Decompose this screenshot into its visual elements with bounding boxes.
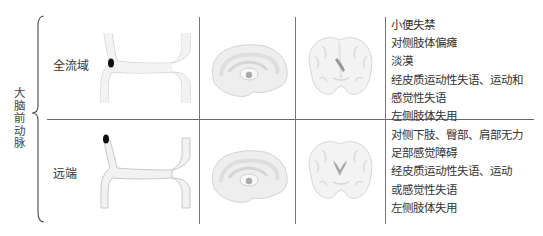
symptom-item: 经皮质运动性失语、运动和 bbox=[391, 71, 523, 89]
artery-label-char: 大 bbox=[12, 87, 26, 100]
symptom-item: 足部感觉障碍 bbox=[391, 144, 523, 162]
occlusion-marker bbox=[103, 135, 109, 144]
sagittal-brain-distal bbox=[207, 146, 291, 204]
symptom-item: 或感觉性失语 bbox=[391, 181, 523, 199]
symptom-list-full-territory: 小便失禁 对侧肢体偏瘫 淡漠 经皮质运动性失语、运动和 感觉性失语 左侧肢体失用 bbox=[391, 16, 523, 125]
symptom-item: 经皮质运动性失语、运动 bbox=[391, 162, 523, 180]
symptom-item: 感觉性失语 bbox=[391, 89, 523, 107]
vessel-diagram-distal bbox=[98, 134, 198, 210]
occlusion-marker bbox=[108, 59, 114, 68]
artery-label-char: 前 bbox=[12, 112, 26, 125]
sagittal-brain-full-territory bbox=[207, 40, 291, 98]
vessel-diagram-full-territory bbox=[98, 30, 198, 106]
symptom-item: 小便失禁 bbox=[391, 16, 523, 34]
curly-brace bbox=[30, 14, 50, 226]
coronal-brain-distal bbox=[303, 136, 379, 206]
row-label-distal: 远端 bbox=[53, 164, 77, 181]
symptom-item: 对侧肢体偏瘫 bbox=[391, 34, 523, 52]
symptom-item: 淡漠 bbox=[391, 52, 523, 70]
column-divider bbox=[199, 17, 200, 224]
coronal-brain-full-territory bbox=[303, 32, 379, 102]
column-divider bbox=[295, 17, 296, 224]
symptom-item: 左侧肢体失用 bbox=[391, 199, 523, 217]
symptom-item: 对侧下肢、臀部、肩部无力 bbox=[391, 126, 523, 144]
artery-label-char: 脉 bbox=[12, 137, 26, 150]
symptom-list-distal: 对侧下肢、臀部、肩部无力 足部感觉障碍 经皮质运动性失语、运动 或感觉性失语 左… bbox=[391, 126, 523, 217]
artery-label: 大 脑 前 动 脉 bbox=[12, 87, 26, 150]
symptom-item: 左侧肢体失用 bbox=[391, 107, 523, 125]
row-label-full-territory: 全流域 bbox=[53, 56, 89, 73]
column-divider bbox=[385, 17, 386, 224]
